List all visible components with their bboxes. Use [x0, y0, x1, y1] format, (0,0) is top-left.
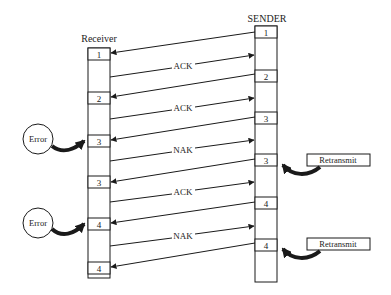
svg-text:Error: Error [29, 218, 47, 228]
svg-text:1: 1 [264, 28, 269, 38]
sender-title: SENDER [248, 13, 287, 24]
ack-label: ACK [173, 187, 193, 197]
ack-label: ACK [173, 103, 193, 113]
nak-label: NAK [173, 231, 193, 241]
receiver-frame: 3 [88, 135, 110, 147]
receiver-frame: 1 [88, 48, 110, 60]
retransmit-indicator: Retransmit [283, 154, 370, 174]
error-arrow-icon [52, 224, 84, 234]
svg-text:4: 4 [97, 264, 102, 274]
svg-text:3: 3 [97, 178, 102, 188]
svg-text:4: 4 [264, 199, 269, 209]
svg-text:4: 4 [97, 220, 102, 230]
stop-and-wait-arq-diagram: Receiver 1 2 3 3 4 4 SENDER [0, 0, 391, 295]
sender-frame: 4 [255, 239, 277, 251]
svg-text:Retransmit: Retransmit [319, 155, 357, 165]
svg-text:1: 1 [97, 50, 102, 60]
response-labels: ACK ACK NAK ACK NAK [173, 61, 193, 241]
error-indicator: Error [23, 208, 84, 238]
svg-text:3: 3 [264, 156, 269, 166]
svg-text:2: 2 [264, 72, 269, 82]
ack-label: ACK [173, 61, 193, 71]
error-arrow-icon [52, 141, 84, 150]
sender-frame: 4 [255, 197, 277, 209]
svg-text:Error: Error [29, 134, 47, 144]
retransmit-indicator: Retransmit [283, 238, 370, 258]
nak-label: NAK [173, 145, 193, 155]
receiver-frame: 4 [88, 262, 110, 274]
svg-text:Retransmit: Retransmit [319, 239, 357, 249]
svg-text:3: 3 [264, 114, 269, 124]
svg-text:3: 3 [97, 137, 102, 147]
svg-text:2: 2 [97, 94, 102, 104]
receiver-frame: 3 [88, 176, 110, 188]
receiver-frame: 4 [88, 218, 110, 230]
sender-column: SENDER 1 2 3 3 4 4 [248, 13, 287, 282]
receiver-title: Receiver [81, 33, 117, 44]
svg-text:4: 4 [264, 241, 269, 251]
sender-frame: 2 [255, 70, 277, 82]
sender-frame: 3 [255, 112, 277, 124]
receiver-frame: 2 [88, 92, 110, 104]
sender-frame: 1 [255, 26, 277, 38]
sender-frame: 3 [255, 154, 277, 166]
error-indicator: Error [23, 124, 84, 154]
receiver-column: Receiver 1 2 3 3 4 4 [81, 33, 117, 278]
